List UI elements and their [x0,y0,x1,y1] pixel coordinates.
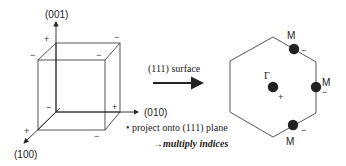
note-multiply: →multiply indices [153,138,228,149]
m-label-top: M [287,30,295,41]
sign-bottom-back-right: + [112,102,117,112]
gamma-sign: + [278,92,283,102]
axis-label-010: (010) [144,107,167,118]
gamma-label: Γ [264,70,270,81]
gamma-point [268,82,278,92]
axes [24,22,138,143]
sign-bottom-front-right: − [94,131,99,141]
sign-top-front-right: − [96,50,101,60]
arrow-label: (111) surface [148,63,201,75]
note-project: • project onto (111) plane [126,122,228,133]
axis-label-100: (100) [14,149,37,160]
axis-label-001: (001) [45,9,68,20]
sign-top-back-left: + [44,34,49,44]
m-point-top [289,44,299,54]
m-sign-top: − [301,45,306,55]
sign-bottom-back-left: − [46,102,51,112]
sign-bottom-front-left: + [24,126,29,136]
m-point-bottom [288,120,298,130]
sign-top-front-left: − [30,50,35,60]
m-label-bottom: M [286,136,294,147]
m-sign-right: − [322,87,327,97]
m-sign-bottom: − [301,125,306,135]
m-point-right [311,82,321,92]
sign-top-back-right: − [114,32,119,42]
x-axis [24,108,60,143]
